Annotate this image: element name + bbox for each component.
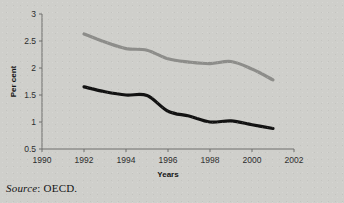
y-tick-label: 0.5 xyxy=(24,144,36,154)
x-axis-title: Years xyxy=(157,170,179,179)
series-line-upper-series xyxy=(84,34,273,80)
source-note: Source: OECD. xyxy=(6,182,77,194)
x-tick-label: 1996 xyxy=(159,155,178,165)
chart-plot: 0.511.522.531990199219941996199820002002… xyxy=(0,0,344,180)
x-tick-label: 1998 xyxy=(201,155,220,165)
series-line-lower-series xyxy=(84,87,273,129)
figure-container: 0.511.522.531990199219941996199820002002… xyxy=(0,0,344,203)
y-tick-label: 3 xyxy=(31,9,36,19)
y-tick-label: 2 xyxy=(31,63,36,73)
source-label: Source xyxy=(6,182,37,194)
x-tick-label: 1994 xyxy=(117,155,136,165)
x-tick-label: 1990 xyxy=(33,155,52,165)
y-tick-label: 1.5 xyxy=(24,90,36,100)
x-tick-label: 2000 xyxy=(243,155,262,165)
x-tick-label: 1992 xyxy=(75,155,94,165)
y-tick-label: 1 xyxy=(31,117,36,127)
source-value: OECD. xyxy=(44,182,78,194)
x-tick-label: 2002 xyxy=(285,155,304,165)
y-tick-label: 2.5 xyxy=(24,36,36,46)
y-axis-title: Per cent xyxy=(9,65,18,97)
